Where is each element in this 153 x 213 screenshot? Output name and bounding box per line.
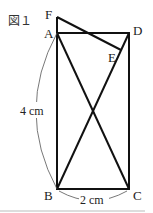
height-label: 4 cm — [20, 104, 44, 118]
point-e-label: E — [108, 50, 116, 65]
point-f-label: F — [45, 7, 52, 22]
point-c-label: C — [133, 188, 142, 203]
figure-caption: 図１ — [8, 14, 32, 28]
width-label: 2 cm — [80, 193, 104, 207]
point-d-label: D — [133, 23, 142, 38]
point-a-label: A — [44, 26, 54, 41]
rectangle-diagram: 図１ 4 cm 2 cm F A D E B C — [0, 0, 153, 213]
point-b-label: B — [44, 188, 53, 203]
